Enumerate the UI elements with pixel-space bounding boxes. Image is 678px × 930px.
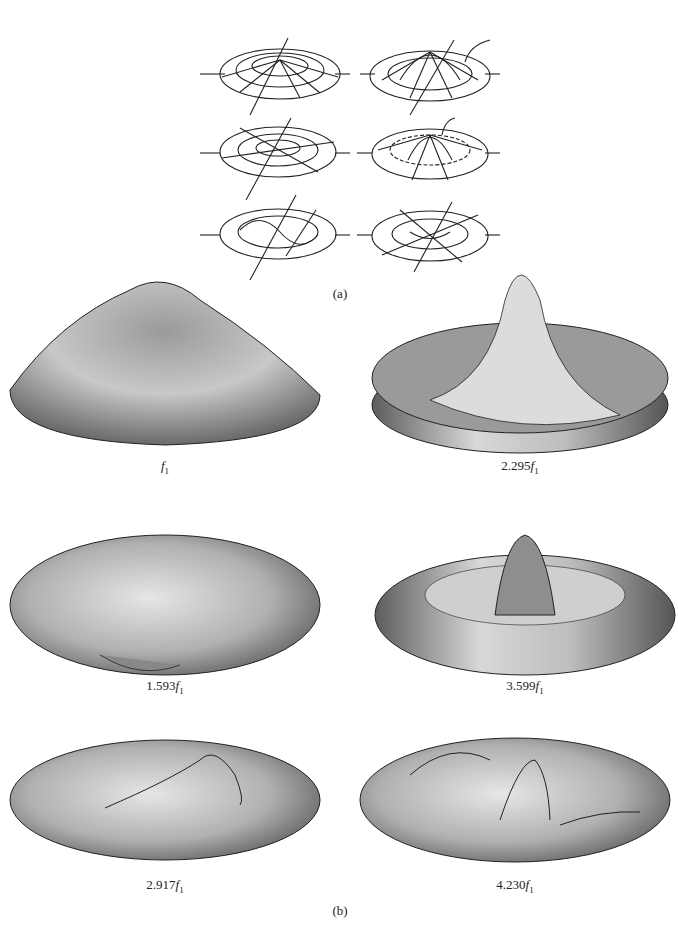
- mode-surface-f1: [10, 282, 320, 445]
- part-b-label: (b): [320, 903, 360, 919]
- part-a-wireframes: [200, 38, 500, 280]
- mode-label-left-1: f1: [140, 458, 190, 476]
- wireframe-nodal-diameter: [200, 118, 350, 200]
- part-a-label: (a): [320, 286, 360, 302]
- mode-label-right-1: 2.295f1: [490, 458, 550, 476]
- mode-label-right-2: 3.599f1: [495, 678, 555, 696]
- mode-label-right-3: 4.230f1: [485, 877, 545, 895]
- wireframe-two-diameters: [200, 195, 350, 280]
- mode-surface-2.295f1: [372, 275, 668, 453]
- wireframe-multi-nodal: [357, 202, 500, 272]
- wireframe-peak: [360, 40, 500, 115]
- mode-surface-2.917f1: [10, 740, 320, 860]
- mode-label-left-3: 2.917f1: [135, 877, 195, 895]
- figure-canvas: [0, 0, 678, 930]
- wireframe-flat: [200, 38, 350, 115]
- mode-surface-4.230f1: [360, 738, 670, 862]
- mode-surface-1.593f1: [10, 535, 320, 675]
- wireframe-nodal-circle: [357, 118, 500, 180]
- mode-label-left-2: 1.593f1: [135, 678, 195, 696]
- mode-surface-3.599f1: [375, 535, 675, 675]
